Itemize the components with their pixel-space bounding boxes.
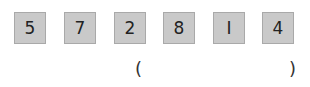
digit-card: 8 <box>163 12 195 44</box>
digit-card: 4 <box>262 12 294 44</box>
digit-card: 2 <box>114 12 146 44</box>
close-paren: ) <box>289 58 296 79</box>
open-paren: ( <box>135 58 142 79</box>
digit-card: 7 <box>64 12 96 44</box>
digit-card: 5 <box>14 12 46 44</box>
digit-card: I <box>213 12 245 44</box>
